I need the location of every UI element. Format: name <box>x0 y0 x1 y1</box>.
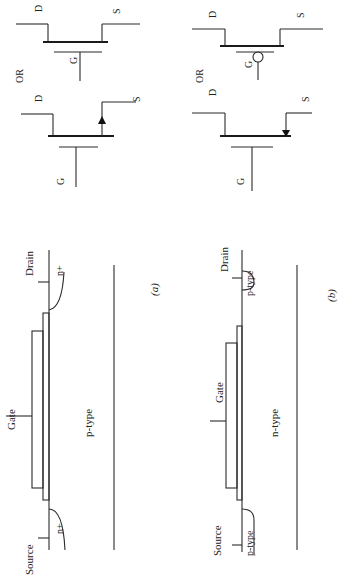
panel-a-cross-section: Gate Source Drain p-type n+ n+ (a) <box>5 250 161 575</box>
gate-electrode <box>32 331 43 488</box>
drain-region-label: n+ <box>54 265 65 276</box>
symbol2-source-label: S <box>111 8 122 14</box>
symbol1-source-label: S <box>300 96 311 102</box>
symbol2-gate-label: G <box>68 57 79 64</box>
gate-electrode <box>226 343 237 488</box>
substrate-label: p-type <box>82 409 94 437</box>
drain-label: Drain <box>23 250 35 276</box>
panel-b-cross-section: Gate Source Drain n-type p-type p-type (… <box>210 246 338 556</box>
source-region-label: p-type <box>244 530 255 556</box>
drain-label: Drain <box>218 246 230 272</box>
drain-region <box>49 272 64 310</box>
or-label: OR <box>194 69 205 83</box>
symbol2-gate-label: G <box>243 61 254 68</box>
symbol2-source-label: S <box>295 12 306 18</box>
symbol1-drain-label: D <box>33 95 44 102</box>
caption-b: (b) <box>325 289 338 302</box>
caption-a: (a) <box>148 283 161 296</box>
gate-label: Gate <box>213 382 225 403</box>
symbol2-drain-label: D <box>207 11 218 18</box>
gate-oxide <box>43 313 49 500</box>
gate-oxide <box>237 326 242 500</box>
drain-region-label: p-type <box>244 270 255 296</box>
inversion-bubble-icon <box>253 52 263 62</box>
symbol1-gate-label: G <box>235 178 246 185</box>
arrow-out-icon <box>98 116 106 124</box>
panel-a-symbols: D S G OR D S G <box>14 5 142 187</box>
symbol2-drain-label: D <box>33 5 44 12</box>
symbol1-drain-label: D <box>207 89 218 96</box>
panel-b-symbols: D S G OR D S G <box>192 11 323 191</box>
gate-label: Gate <box>5 409 17 430</box>
source-label: Source <box>23 544 35 575</box>
mosfet-figure: Gate Source Drain p-type n+ n+ (a) D S G… <box>0 0 349 578</box>
source-region-label: n+ <box>54 523 65 534</box>
source-label: Source <box>211 525 223 556</box>
substrate-label: n-type <box>268 409 280 437</box>
or-label: OR <box>14 69 25 83</box>
symbol1-source-label: S <box>131 96 142 102</box>
symbol1-gate-label: G <box>55 178 66 185</box>
